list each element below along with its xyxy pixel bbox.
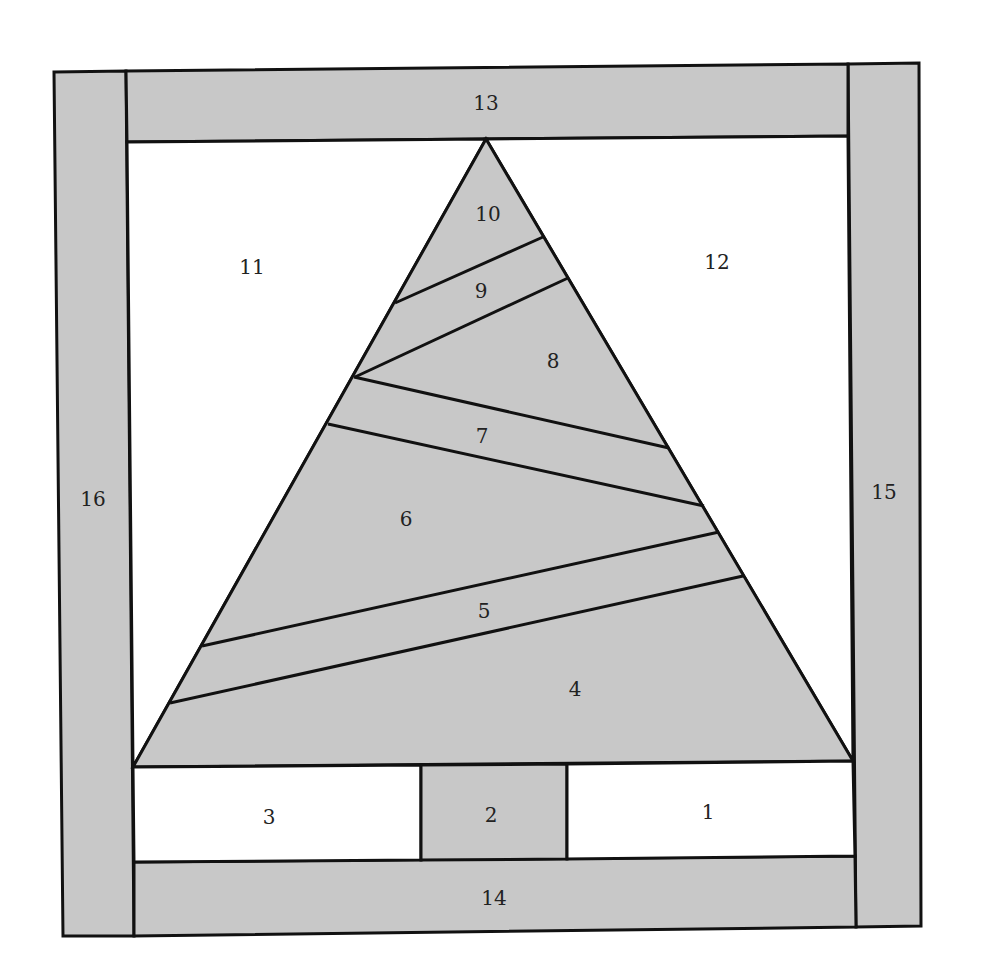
quilt-block-diagram: 1 2 3 4 5 6 7 8 9 10 11 12 13 14 15 16 <box>0 0 982 973</box>
label-3: 3 <box>263 805 276 829</box>
label-16: 16 <box>80 487 105 511</box>
label-15: 15 <box>871 480 896 504</box>
label-7: 7 <box>476 424 489 448</box>
label-14: 14 <box>481 886 506 910</box>
label-11: 11 <box>239 255 264 279</box>
label-5: 5 <box>478 599 491 623</box>
label-9: 9 <box>475 279 488 303</box>
label-10: 10 <box>475 202 500 226</box>
label-13: 13 <box>473 91 498 115</box>
label-2: 2 <box>485 803 498 827</box>
piece-3-bottom-left <box>133 765 421 862</box>
label-1: 1 <box>702 800 715 824</box>
label-4: 4 <box>569 677 582 701</box>
label-12: 12 <box>704 250 729 274</box>
label-8: 8 <box>547 349 560 373</box>
label-6: 6 <box>400 507 413 531</box>
